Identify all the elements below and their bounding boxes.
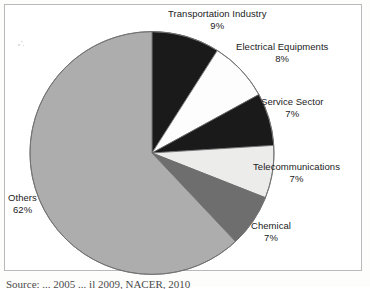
pie-label-transportation-industry-value: 9% [168,20,266,32]
pie-label-electrical-equipments-text: Electrical Equipments [236,41,328,52]
pie-label-others-text: Others [8,192,37,203]
pie-label-telecommunications-value: 7% [253,173,340,185]
pie-label-service-sector: Service Sector 7% [261,96,323,119]
pie-label-chemical: Chemical 7% [251,220,291,243]
pie-label-chemical-text: Chemical [251,220,291,231]
pie-label-electrical-equipments: Electrical Equipments 8% [236,41,328,64]
pie-label-service-sector-value: 7% [261,108,323,120]
pie-label-others: Others 62% [8,192,37,215]
figure-caption: Source: ... 2005 ... il 2009, NACER, 201… [6,278,366,289]
pie-label-electrical-equipments-value: 8% [236,53,328,65]
pie-label-service-sector-text: Service Sector [261,96,323,107]
pie-label-others-value: 62% [8,204,37,216]
pie-label-transportation-industry-text: Transportation Industry [168,8,266,19]
pie-label-telecommunications-text: Telecommunications [253,161,340,172]
pie-label-telecommunications: Telecommunications 7% [253,161,340,184]
pie-label-transportation-industry: Transportation Industry 9% [168,8,266,31]
pie-label-chemical-value: 7% [251,232,291,244]
